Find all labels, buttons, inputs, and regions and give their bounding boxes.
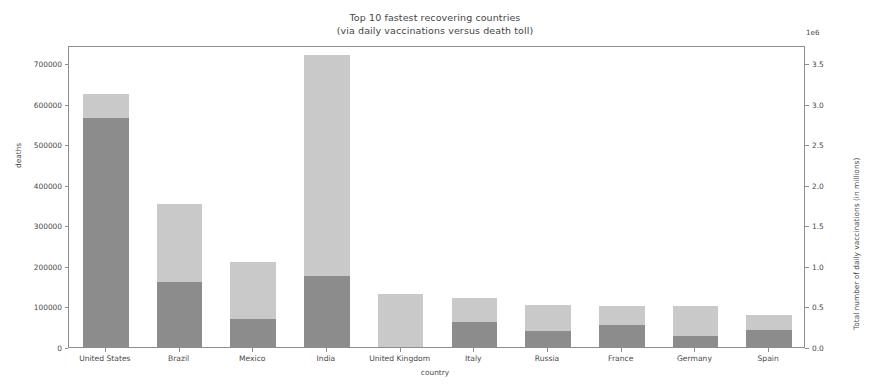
x-tick-mark [473,348,474,352]
left-axis-title: deaths [14,143,23,168]
right-y-tick-mark [805,186,809,187]
x-tick-mark [326,348,327,352]
left-y-tick-label: 200000 [34,262,62,271]
x-tick-mark [400,348,401,352]
plot-inner [69,47,804,347]
chart-title: Top 10 fastest recovering countries (via… [0,12,870,37]
left-y-tick-mark [65,145,69,146]
bar-group[interactable] [673,45,719,347]
plot-area [68,46,805,348]
left-y-tick-mark [65,64,69,65]
right-y-tick-label: 1.5 [812,222,824,231]
bar-group[interactable] [378,45,424,347]
right-y-tick-mark [805,105,809,106]
bar-group[interactable] [525,45,571,347]
bar-group[interactable] [230,45,276,347]
x-tick-mark [105,348,106,352]
left-y-tick-mark [65,267,69,268]
right-y-tick-label: 2.5 [812,141,824,150]
bar-deaths[interactable] [452,322,498,347]
right-y-tick-label: 3.5 [812,60,824,69]
x-tick-label: Brazil [168,354,189,363]
bar-group[interactable] [452,45,498,347]
bar-deaths[interactable] [304,276,350,347]
bar-group[interactable] [599,45,645,347]
x-tick-label: Russia [535,354,559,363]
x-tick-mark [768,348,769,352]
right-y-tick-mark [805,348,809,349]
right-y-tick-mark [805,267,809,268]
bar-deaths[interactable] [230,319,276,347]
right-y-tick-label: 3.0 [812,100,824,109]
bar-vaccinations[interactable] [378,294,424,347]
bar-deaths[interactable] [599,325,645,347]
x-tick-mark [547,348,548,352]
right-y-tick-mark [805,145,809,146]
bar-deaths[interactable] [83,118,129,347]
x-tick-mark [621,348,622,352]
bar-deaths[interactable] [157,282,203,347]
x-tick-label: United States [79,354,130,363]
x-tick-mark [252,348,253,352]
x-tick-label: Italy [465,354,481,363]
left-y-tick-mark [65,186,69,187]
chart-title-line2: (via daily vaccinations versus death tol… [0,25,870,38]
right-y-tick-label: 1.0 [812,262,824,271]
right-y-tick-label: 2.0 [812,181,824,190]
left-y-tick-mark [65,348,69,349]
chart-title-line1: Top 10 fastest recovering countries [0,12,870,25]
x-axis-title: country [0,368,870,377]
bar-deaths[interactable] [673,336,719,347]
left-y-tick-label: 100000 [34,303,62,312]
bar-group[interactable] [83,45,129,347]
x-tick-mark [694,348,695,352]
right-axis-offset-label: 1e6 [806,28,820,37]
bar-deaths[interactable] [746,330,792,347]
right-y-tick-mark [805,307,809,308]
x-tick-label: United Kingdom [369,354,430,363]
x-tick-label: Mexico [239,354,266,363]
figure-canvas: Top 10 fastest recovering countries (via… [0,0,870,386]
left-y-tick-mark [65,226,69,227]
right-y-tick-label: 0.5 [812,303,824,312]
left-y-tick-label: 400000 [34,181,62,190]
bar-group[interactable] [157,45,203,347]
x-tick-label: Germany [677,354,712,363]
right-y-tick-label: 0.0 [812,344,824,353]
left-y-tick-label: 0 [57,344,62,353]
x-tick-label: India [317,354,336,363]
right-y-tick-mark [805,64,809,65]
bar-group[interactable] [746,45,792,347]
bar-group[interactable] [304,45,350,347]
right-y-tick-mark [805,226,809,227]
left-y-tick-mark [65,307,69,308]
left-y-tick-label: 300000 [34,222,62,231]
x-tick-label: France [608,354,633,363]
x-tick-mark [179,348,180,352]
left-y-tick-label: 700000 [34,60,62,69]
left-y-tick-label: 600000 [34,100,62,109]
bar-deaths[interactable] [525,331,571,347]
left-y-tick-label: 500000 [34,141,62,150]
left-y-tick-mark [65,105,69,106]
right-axis-title: Total number of daily vaccinations (in m… [852,158,861,330]
x-tick-label: Spain [758,354,779,363]
